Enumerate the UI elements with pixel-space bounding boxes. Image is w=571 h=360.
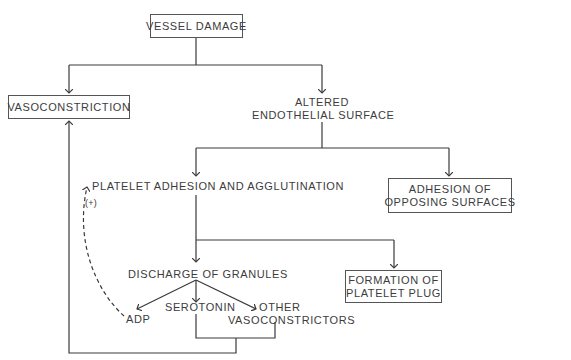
node-vessel-damage: VESSEL DAMAGE: [150, 14, 243, 38]
node-discharge-granules: DISCHARGE OF GRANULES: [128, 268, 268, 281]
node-serotonin: SEROTONIN: [165, 301, 236, 314]
node-label: PLATELET ADHESION AND AGGLUTINATION: [92, 180, 344, 192]
node-label-line2: ENDOTHELIAL SURFACE: [252, 109, 392, 122]
node-platelet-adhesion: PLATELET ADHESION AND AGGLUTINATION: [92, 180, 344, 193]
node-label-line1: OTHER: [228, 301, 355, 314]
node-label-line1: ADHESION OF: [409, 183, 491, 196]
node-label: ADP: [126, 313, 150, 325]
node-label: SEROTONIN: [165, 301, 236, 313]
node-label: VASOCONSTRICTION: [7, 101, 130, 114]
node-altered-endothelial-surface: ALTERED ENDOTHELIAL SURFACE: [252, 96, 392, 122]
node-label-line2: PLATELET PLUG: [346, 287, 441, 300]
node-formation-platelet-plug: FORMATION OF PLATELET PLUG: [345, 270, 442, 303]
node-label: VESSEL DAMAGE: [146, 20, 247, 33]
edge-return-to-vasoconstriction: [69, 121, 236, 353]
node-label-line1: ALTERED: [252, 96, 392, 109]
node-adhesion-opposing-surfaces: ADHESION OF OPPOSING SURFACES: [388, 178, 512, 213]
plus-sign-label: (+): [85, 198, 97, 208]
hemostasis-flowchart: VESSEL DAMAGE VASOCONSTRICTION ALTERED E…: [0, 0, 571, 360]
node-adp: ADP: [126, 313, 150, 326]
node-other-vasoconstrictors: OTHER VASOCONSTRICTORS: [228, 301, 355, 327]
node-label: DISCHARGE OF GRANULES: [128, 268, 288, 280]
positive-feedback-label: (+): [85, 197, 97, 210]
node-label-line2: VASOCONSTRICTORS: [228, 314, 355, 327]
node-label-line2: OPPOSING SURFACES: [384, 196, 515, 209]
node-vasoconstriction: VASOCONSTRICTION: [8, 95, 130, 119]
node-label-line1: FORMATION OF: [348, 274, 439, 287]
